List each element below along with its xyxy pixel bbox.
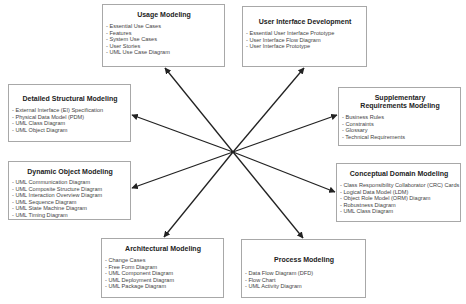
box-item: Glossary [342, 127, 460, 134]
box-items: UML Communication Diagram UML Composite … [12, 179, 130, 219]
box-detailed-structural-modeling: Detailed Structural Modeling External In… [8, 84, 131, 142]
box-title: Supplementary Requirements Modeling [342, 94, 458, 110]
box-item: Essential User Interface Prototype [246, 30, 366, 37]
box-items: Essential Use Cases Features System Use … [106, 23, 224, 56]
box-item: UML Sequence Diagram [12, 199, 130, 206]
box-dynamic-object-modeling: Dynamic Object Modeling UML Communicatio… [8, 161, 131, 220]
box-items: Business Rules Constraints Glossary Tech… [342, 114, 460, 140]
box-item: UML State Machine Diagram [12, 205, 130, 212]
box-title: Dynamic Object Modeling [12, 168, 128, 176]
box-item: Free Form Diagram [105, 264, 223, 271]
box-supplementary-requirements-modeling: Supplementary Requirements Modeling Busi… [338, 87, 461, 146]
box-item: UML Interaction Overview Diagram [12, 192, 130, 199]
box-item: Object Role Model (ORM) Diagram [340, 195, 460, 202]
box-item: Change Cases [105, 257, 223, 264]
box-item: UML Activity Diagram [245, 283, 365, 290]
box-item: User Interface Prototype [246, 43, 366, 50]
box-item: UML Class Diagram [340, 208, 460, 215]
box-item: Data Flow Diagram (DFD) [245, 270, 365, 277]
box-item: Essential Use Cases [106, 23, 224, 30]
box-item: User Interface Flow Diagram [246, 37, 366, 44]
box-item: UML Class Diagram [12, 120, 130, 127]
box-items: Essential User Interface Prototype User … [246, 30, 366, 50]
box-item: UML Use Case Diagram [106, 49, 224, 56]
box-item: Class Responsibility Collaborator (CRC) … [340, 182, 460, 189]
box-title: Process Modeling [245, 256, 363, 264]
box-item: Flow Chart [245, 277, 365, 284]
box-items: External Interface (EI) Specification Ph… [12, 107, 130, 133]
box-item: Constraints [342, 121, 460, 128]
box-usage-modeling: Usage Modeling Essential Use Cases Featu… [102, 4, 225, 67]
box-items: Data Flow Diagram (DFD) Flow Chart UML A… [245, 270, 365, 290]
arrows-layer [0, 0, 466, 304]
box-title: Detailed Structural Modeling [12, 95, 128, 103]
box-item: UML Composite Structure Diagram [12, 186, 130, 193]
modeling-artifacts-diagram: Usage Modeling Essential Use Cases Featu… [0, 0, 466, 304]
box-item: External Interface (EI) Specification [12, 107, 130, 114]
box-item: Business Rules [342, 114, 460, 121]
box-item: Features [106, 30, 224, 37]
box-user-interface-development: User Interface Development Essential Use… [242, 6, 367, 67]
box-item: Logical Data Model (LDM) [340, 189, 460, 196]
box-items: Class Responsibility Collaborator (CRC) … [340, 182, 460, 215]
box-title: User Interface Development [246, 18, 364, 26]
box-process-modeling: Process Modeling Data Flow Diagram (DFD)… [241, 239, 366, 298]
box-title: Architectural Modeling [105, 245, 221, 253]
box-item: UML Timing Diagram [12, 212, 130, 219]
box-item: UML Deployment Diagram [105, 277, 223, 284]
box-item: Physical Data Model (PDM) [12, 114, 130, 121]
box-conceptual-domain-modeling: Conceptual Domain Modeling Class Respons… [336, 163, 461, 222]
box-item: UML Package Diagram [105, 283, 223, 290]
box-item: UML Communication Diagram [12, 179, 130, 186]
box-architectural-modeling: Architectural Modeling Change Cases Free… [101, 238, 224, 298]
arrow-to-process [233, 152, 303, 238]
arrow-to-conceptual [233, 152, 335, 192]
box-title: Usage Modeling [106, 11, 222, 19]
box-items: Change Cases Free Form Diagram UML Compo… [105, 257, 223, 290]
box-item: UML Object Diagram [12, 127, 130, 134]
box-item: Technical Requirements [342, 134, 460, 141]
box-item: System Use Cases [106, 36, 224, 43]
box-item: UML Component Diagram [105, 270, 223, 277]
box-title: Conceptual Domain Modeling [340, 170, 458, 178]
box-item: Robustness Diagram [340, 202, 460, 209]
box-item: User Stories [106, 43, 224, 50]
